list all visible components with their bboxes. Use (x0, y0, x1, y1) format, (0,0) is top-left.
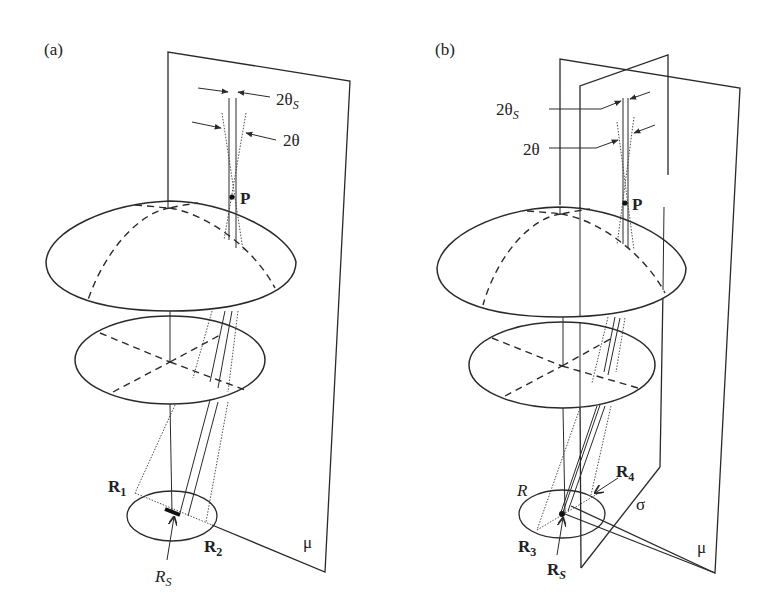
source-point-rs (559, 511, 565, 517)
label-r2: R2 (204, 537, 222, 559)
rs-arrow (167, 517, 174, 560)
upper-lens (46, 201, 296, 311)
label-r4: R4 (616, 462, 634, 484)
upper-lens-b (437, 207, 686, 317)
lower-lens-b (469, 317, 655, 408)
label-2theta-s: 2θS (276, 90, 299, 112)
label-sigma: σ (636, 495, 645, 514)
angle-annotations-b: 2θS 2θ (496, 92, 655, 159)
panel-b: (b) (435, 40, 740, 582)
panel-a: (a) (44, 40, 350, 589)
point-p-b (622, 200, 627, 205)
panel-b-label: (b) (435, 40, 455, 59)
source-segment-rs (165, 509, 180, 515)
label-mu-b: μ (697, 538, 706, 557)
point-p (229, 194, 234, 199)
label-p: P (240, 189, 250, 208)
label-r: R (516, 481, 528, 500)
label-rs-b: RS (547, 560, 566, 582)
ray-bundle (135, 98, 246, 525)
label-p-b: P (632, 195, 642, 214)
angle-annotations: 2θS 2θ (192, 88, 300, 150)
lower-lens (75, 316, 265, 404)
label-2theta: 2θ (283, 131, 300, 150)
label-2theta-s-b: 2θS (496, 100, 519, 122)
label-r1: R1 (108, 477, 126, 499)
label-r3: R3 (518, 537, 536, 559)
label-mu: μ (303, 533, 312, 552)
r4-arrow (595, 478, 618, 493)
optical-system-figure: (a) (0, 0, 775, 606)
label-2theta-b: 2θ (523, 140, 540, 159)
rs-arrow-b (557, 518, 563, 555)
panel-a-label: (a) (44, 40, 63, 59)
label-rs: RS (154, 567, 171, 589)
